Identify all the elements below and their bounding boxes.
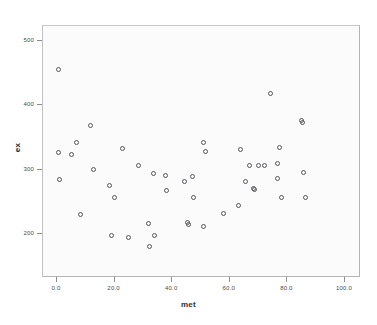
plot-area: [42, 25, 360, 277]
x-axis-tick-mark: [229, 277, 230, 282]
data-point: [275, 176, 280, 181]
data-point: [301, 170, 306, 175]
data-point: [56, 67, 61, 72]
data-point: [247, 163, 252, 168]
data-point: [78, 212, 83, 217]
data-point: [120, 146, 125, 151]
data-point: [152, 233, 157, 238]
data-point: [146, 221, 151, 226]
x-axis-tick-label: 60.0: [223, 285, 235, 291]
data-point: [126, 235, 131, 240]
data-point: [69, 152, 74, 157]
y-axis-tick-label: 500: [23, 37, 34, 43]
data-point: [277, 145, 282, 150]
data-point: [300, 120, 305, 125]
data-point: [182, 179, 187, 184]
x-axis-tick-label: 100.0: [336, 285, 352, 291]
x-axis-tick-label: 40.0: [165, 285, 177, 291]
x-axis-tick-mark: [114, 277, 115, 282]
data-point: [107, 183, 112, 188]
data-point: [88, 123, 93, 128]
data-point: [262, 163, 267, 168]
data-point: [238, 147, 243, 152]
x-axis-tick-mark: [56, 277, 57, 282]
data-point: [279, 195, 284, 200]
y-axis-tick-label: 300: [23, 166, 34, 172]
y-axis-title: ex: [13, 143, 22, 153]
data-point: [243, 179, 248, 184]
data-point: [203, 149, 208, 154]
x-axis-tick-label: 0.0: [52, 285, 61, 291]
data-point: [236, 203, 241, 208]
data-point: [151, 171, 156, 176]
data-point: [221, 211, 226, 216]
data-point: [201, 224, 206, 229]
data-point: [57, 177, 62, 182]
data-point: [201, 140, 206, 145]
x-axis-tick-mark: [171, 277, 172, 282]
data-point: [186, 222, 191, 227]
data-point: [56, 150, 61, 155]
data-point: [74, 140, 79, 145]
data-point: [109, 233, 114, 238]
data-point: [190, 174, 195, 179]
data-point: [191, 195, 196, 200]
x-axis-title: met: [0, 300, 377, 309]
data-point: [256, 163, 261, 168]
x-axis-tick-mark: [286, 277, 287, 282]
data-point: [252, 187, 257, 192]
scatter-plot-figure: 200300400500 0.020.040.060.080.0100.0 ex…: [0, 0, 377, 325]
data-point: [91, 167, 96, 172]
data-point: [136, 163, 141, 168]
data-point: [303, 195, 308, 200]
data-point: [268, 91, 273, 96]
x-axis-tick-mark: [344, 277, 345, 282]
data-point: [164, 188, 169, 193]
data-point: [112, 195, 117, 200]
data-point: [147, 244, 152, 249]
y-axis-tick-label: 400: [23, 101, 34, 107]
x-axis-tick-label: 80.0: [280, 285, 292, 291]
data-point: [275, 161, 280, 166]
y-axis-tick-label: 200: [23, 230, 34, 236]
x-axis-tick-label: 20.0: [107, 285, 119, 291]
data-point: [163, 173, 168, 178]
